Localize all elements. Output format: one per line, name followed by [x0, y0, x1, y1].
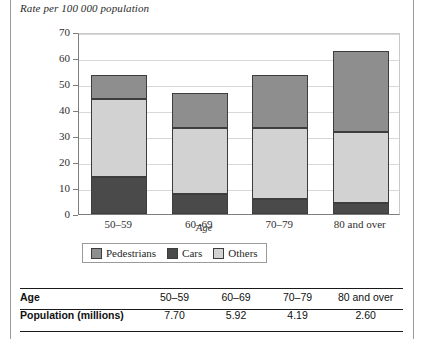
bar-segment-others[interactable] [333, 132, 389, 203]
table-cell-r1-c2: 60–69 [205, 288, 267, 306]
table-row-header-1: Age [20, 288, 144, 306]
y-tick-mark-50 [73, 85, 78, 86]
table-row: Age50–5960–6970–7980 and over [20, 288, 403, 306]
table-cell-r1-c4: 80 and over [328, 288, 403, 306]
y-tick-mark-60 [73, 59, 78, 60]
table-cell-r2-c1: 7.70 [144, 306, 206, 324]
bar-2[interactable] [172, 93, 228, 214]
y-tick-mark-30 [73, 137, 78, 138]
y-tick-label-50: 50 [44, 78, 70, 90]
table-body: Age50–5960–6970–7980 and overPopulation … [20, 288, 403, 324]
table-rule-bottom [20, 331, 403, 332]
x-tick-label-1: 50–59 [78, 218, 159, 230]
y-tick-label-10: 10 [44, 182, 70, 194]
y-tick-label-70: 70 [44, 26, 70, 38]
bar-segment-others[interactable] [172, 128, 228, 195]
legend-item-cars[interactable]: Cars [167, 247, 202, 259]
population-table: Age50–5960–6970–7980 and overPopulation … [20, 288, 403, 324]
y-tick-mark-10 [73, 189, 78, 190]
bar-segment-pedestrians[interactable] [252, 75, 308, 128]
y-tick-mark-40 [73, 111, 78, 112]
y-tick-label-30: 30 [44, 130, 70, 142]
table-cell-r2-c4: 2.60 [328, 306, 403, 324]
y-tick-label-0: 0 [44, 208, 70, 220]
legend-item-others[interactable]: Others [213, 247, 257, 259]
y-tick-mark-70 [73, 33, 78, 34]
table-cell-r2-c2: 5.92 [205, 306, 267, 324]
x-tick-label-4: 80 and over [320, 218, 401, 230]
gridline-70 [79, 34, 399, 35]
legend-swatch-others [213, 248, 224, 259]
bar-segment-cars[interactable] [91, 177, 147, 214]
y-tick-mark-20 [73, 163, 78, 164]
x-axis-title: Age [196, 222, 212, 233]
x-tick-label-3: 70–79 [239, 218, 320, 230]
table-row-header-2: Population (millions) [20, 306, 144, 324]
legend-swatch-pedestrians [91, 248, 102, 259]
legend-label-pedestrians: Pedestrians [106, 247, 156, 259]
bar-segment-others[interactable] [91, 99, 147, 177]
legend-swatch-cars [167, 248, 178, 259]
bar-segment-cars[interactable] [172, 194, 228, 214]
table-cell-r2-c3: 4.19 [267, 306, 329, 324]
legend-item-pedestrians[interactable]: Pedestrians [91, 247, 156, 259]
y-tick-label-60: 60 [44, 52, 70, 64]
table-cell-r1-c3: 70–79 [267, 288, 329, 306]
legend-label-others: Others [228, 247, 257, 259]
bar-segment-others[interactable] [252, 128, 308, 199]
y-tick-label-20: 20 [44, 156, 70, 168]
stacked-bar-chart: 010203040506070 50–5960–6970–7980 and ov… [0, 0, 425, 285]
bar-segment-pedestrians[interactable] [333, 51, 389, 132]
table-cell-r1-c1: 50–59 [144, 288, 206, 306]
bar-1[interactable] [91, 75, 147, 214]
bar-segment-cars[interactable] [333, 203, 389, 214]
bar-3[interactable] [252, 75, 308, 214]
bar-segment-cars[interactable] [252, 199, 308, 214]
plot-area [78, 33, 400, 215]
bar-segment-pedestrians[interactable] [172, 93, 228, 127]
y-tick-label-40: 40 [44, 104, 70, 116]
y-tick-mark-0 [73, 215, 78, 216]
chart-legend: PedestriansCarsOthers [82, 243, 267, 263]
figure-page: Rate per 100 000 population 010203040506… [0, 0, 425, 339]
table-row: Population (millions)7.705.924.192.60 [20, 306, 403, 324]
bar-4[interactable] [333, 51, 389, 214]
bar-segment-pedestrians[interactable] [91, 75, 147, 99]
legend-label-cars: Cars [182, 247, 202, 259]
